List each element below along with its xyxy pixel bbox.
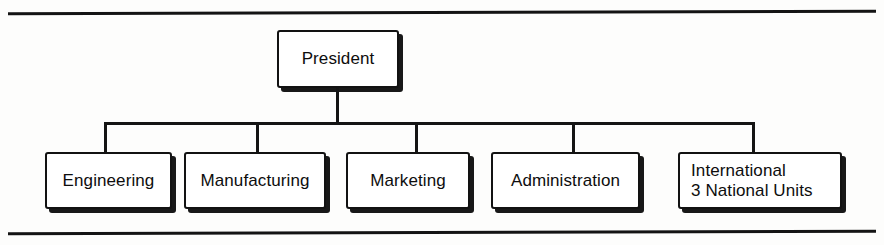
node-marketing-label: Marketing <box>370 171 446 191</box>
connector-bus <box>104 122 755 125</box>
connector-drop-international <box>752 122 755 153</box>
node-engineering-label: Engineering <box>63 171 155 191</box>
connector-drop-administration <box>572 122 575 153</box>
node-manufacturing[interactable]: Manufacturing <box>184 152 326 209</box>
node-president-label: President <box>302 49 375 69</box>
org-chart-figure: President Engineering Manufacturing Mark… <box>0 0 884 245</box>
node-manufacturing-label: Manufacturing <box>200 171 309 191</box>
connector-drop-manufacturing <box>256 122 259 153</box>
top-rule <box>8 10 876 16</box>
connector-trunk <box>336 88 339 125</box>
bottom-rule <box>8 230 876 236</box>
node-international[interactable]: International 3 National Units <box>678 152 842 209</box>
node-administration[interactable]: Administration <box>491 152 640 209</box>
node-administration-label: Administration <box>511 171 620 191</box>
node-marketing[interactable]: Marketing <box>346 152 470 209</box>
connector-drop-engineering <box>104 122 107 153</box>
connector-drop-marketing <box>415 122 418 153</box>
node-engineering[interactable]: Engineering <box>45 152 172 209</box>
node-international-label: International 3 National Units <box>691 161 813 201</box>
node-president[interactable]: President <box>277 30 399 88</box>
